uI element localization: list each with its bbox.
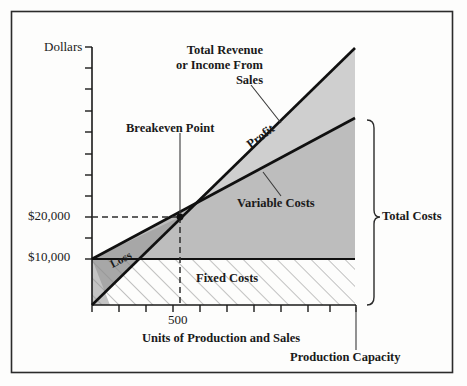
x-axis-ticks [92,305,356,312]
y-tick-label-20000: $20,000 [28,209,70,224]
breakeven-label: Breakeven Point [126,121,214,135]
y-axis-ticks [85,47,92,259]
breakeven-point-marker [177,214,184,221]
breakeven-chart-figure: Dollars $20,000 $10,000 500 Units of Pro… [0,0,467,386]
revenue-label-line1: Total Revenue [153,43,263,58]
y-tick-label-10000: $10,000 [28,250,70,265]
total-costs-brace [367,120,380,305]
revenue-leader-line [251,85,281,123]
x-tick-label-500: 500 [168,313,188,328]
production-capacity-label: Production Capacity [290,350,401,364]
x-axis-title: Units of Production and Sales [142,331,300,345]
revenue-label-line2: or Income From [153,58,263,73]
total-costs-label: Total Costs [382,209,442,223]
revenue-label: Total Revenue or Income From Sales [153,43,263,87]
y-axis-title: Dollars [44,40,82,55]
fixed-costs-label: Fixed Costs [196,271,258,285]
variable-costs-label: Variable Costs [237,196,315,210]
revenue-label-line3: Sales [153,73,263,88]
